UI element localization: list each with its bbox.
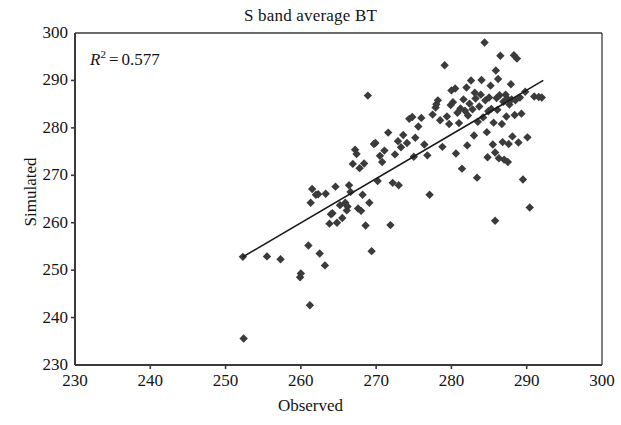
data-point-marker xyxy=(367,247,375,255)
x-tick-label: 270 xyxy=(363,371,389,391)
data-point-marker xyxy=(428,110,436,118)
y-tick-label: 250 xyxy=(20,260,68,280)
data-point-marker xyxy=(440,61,448,69)
data-point-marker xyxy=(467,76,475,84)
data-point-marker xyxy=(364,91,372,99)
data-point-marker xyxy=(477,76,485,84)
y-tick-label: 290 xyxy=(20,70,68,90)
data-point-marker xyxy=(470,131,478,139)
data-point-marker xyxy=(508,132,516,140)
data-point-marker xyxy=(445,120,453,128)
r-squared-value: 0.577 xyxy=(121,50,159,69)
r-squared-annotation: R2=0.577 xyxy=(90,48,160,70)
y-tick-label: 240 xyxy=(20,308,68,328)
data-point-marker xyxy=(306,301,314,309)
data-point-marker xyxy=(494,75,502,83)
data-point-marker xyxy=(489,140,497,148)
data-point-marker xyxy=(498,120,506,128)
data-point-marker xyxy=(452,149,460,157)
data-point-marker xyxy=(486,81,494,89)
data-point-marker xyxy=(483,128,491,136)
data-point-marker xyxy=(458,164,466,172)
data-point-marker xyxy=(391,150,399,158)
x-axis-title: Observed xyxy=(0,396,621,416)
data-point-marker xyxy=(304,241,312,249)
x-tick-label: 250 xyxy=(213,371,239,391)
regression-line xyxy=(243,80,543,256)
y-axis-title: Simulated xyxy=(21,122,41,262)
data-points xyxy=(239,38,546,342)
data-point-marker xyxy=(491,217,499,225)
data-point-marker xyxy=(325,219,333,227)
data-point-marker xyxy=(514,138,522,146)
data-point-marker xyxy=(489,118,497,126)
data-point-marker xyxy=(473,173,481,181)
data-point-marker xyxy=(455,119,463,127)
data-point-marker xyxy=(276,255,284,263)
data-point-marker xyxy=(403,139,411,147)
data-point-marker xyxy=(349,160,357,168)
data-point-marker xyxy=(321,261,329,269)
data-point-marker xyxy=(331,182,339,190)
data-point-marker xyxy=(417,114,425,122)
y-tick-label: 300 xyxy=(20,23,68,43)
data-point-marker xyxy=(365,199,373,207)
data-point-marker xyxy=(420,140,428,148)
data-point-marker xyxy=(411,134,419,142)
data-point-marker xyxy=(438,143,446,151)
x-tick-label: 290 xyxy=(514,371,540,391)
data-point-marker xyxy=(315,249,323,257)
data-point-marker xyxy=(425,191,433,199)
data-point-marker xyxy=(436,116,444,124)
data-point-marker xyxy=(361,221,369,229)
data-point-marker xyxy=(523,133,531,141)
data-point-marker xyxy=(492,66,500,74)
data-point-marker xyxy=(358,191,366,199)
r-squared-symbol: R xyxy=(90,50,100,69)
data-point-marker xyxy=(517,109,525,117)
data-point-marker xyxy=(345,181,353,189)
data-point-marker xyxy=(507,80,515,88)
data-point-marker xyxy=(480,38,488,46)
data-point-marker xyxy=(263,252,271,260)
data-point-marker xyxy=(483,153,491,161)
x-tick-label: 260 xyxy=(288,371,314,391)
data-point-marker xyxy=(399,131,407,139)
data-point-marker xyxy=(502,112,510,120)
scatter-plot-figure: S band average BT 2302402502602702802903… xyxy=(0,0,621,425)
y-tick-label: 230 xyxy=(20,355,68,375)
data-point-marker xyxy=(463,141,471,149)
axes xyxy=(75,33,602,365)
data-point-marker xyxy=(496,52,504,60)
data-point-marker xyxy=(306,199,314,207)
data-point-marker xyxy=(322,190,330,198)
data-point-marker xyxy=(459,95,467,103)
x-tick-label: 240 xyxy=(138,371,164,391)
data-point-marker xyxy=(519,175,527,183)
r-squared-equals: = xyxy=(106,50,122,69)
data-point-marker xyxy=(414,122,422,130)
data-point-marker xyxy=(386,221,394,229)
x-tick-label: 230 xyxy=(62,371,88,391)
data-point-marker xyxy=(462,83,470,91)
x-tick-label: 300 xyxy=(589,371,615,391)
data-point-marker xyxy=(443,112,451,120)
x-tick-label: 280 xyxy=(439,371,465,391)
data-point-marker xyxy=(384,128,392,136)
data-point-marker xyxy=(239,334,247,342)
data-point-marker xyxy=(510,111,518,119)
data-point-marker xyxy=(526,203,534,211)
data-point-marker xyxy=(423,151,431,159)
